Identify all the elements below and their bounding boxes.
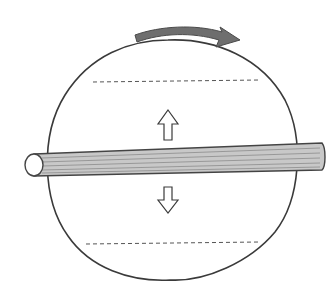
rod-end-cap (25, 154, 43, 176)
sphere-rotation-diagram: Hand-drawn sketch of a sphere rotating a… (0, 0, 336, 294)
